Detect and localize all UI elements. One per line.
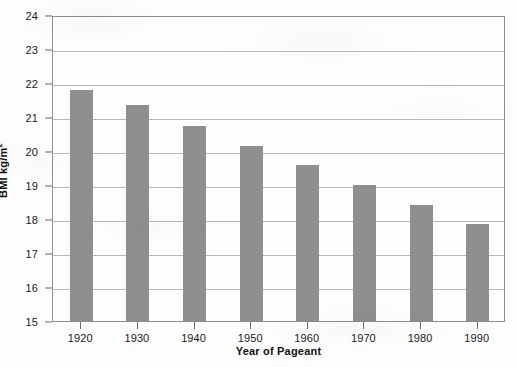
x-tick-mark-1930 <box>137 322 138 329</box>
y-tick-label-18: 18 <box>26 214 38 226</box>
gridline-20 <box>53 153 504 154</box>
x-tick-label-1980: 1980 <box>408 332 433 344</box>
y-tick-label-19: 19 <box>26 180 38 192</box>
bar-1960 <box>296 165 319 321</box>
x-tick-mark-1940 <box>194 322 195 329</box>
bar-1930 <box>126 105 149 321</box>
y-tick-mark-18 <box>45 220 52 221</box>
y-tick-mark-17 <box>45 254 52 255</box>
x-axis-title: Year of Pageant <box>52 345 505 357</box>
x-tick-label-1990: 1990 <box>464 332 489 344</box>
x-tick-mark-1980 <box>420 322 421 329</box>
y-tick-label-21: 21 <box>26 112 38 124</box>
gridline-19 <box>53 187 504 188</box>
x-tick-mark-1920 <box>80 322 81 329</box>
bar-1950 <box>240 146 263 321</box>
y-tick-mark-19 <box>45 186 52 187</box>
x-tick-label-1930: 1930 <box>124 332 149 344</box>
y-tick-label-23: 23 <box>26 44 38 56</box>
bar-1940 <box>183 126 206 322</box>
y-tick-mark-21 <box>45 118 52 119</box>
y-tick-label-15: 15 <box>26 316 38 328</box>
gridline-21 <box>53 119 504 120</box>
gridline-18 <box>53 221 504 222</box>
y-tick-label-24: 24 <box>26 10 38 22</box>
y-axis-title: BMI kg/m2 <box>0 143 9 198</box>
y-tick-label-16: 16 <box>26 282 38 294</box>
bar-1920 <box>70 90 93 321</box>
x-tick-mark-1950 <box>250 322 251 329</box>
y-axis-title-text: BMI kg/m <box>0 148 9 199</box>
gridline-23 <box>53 51 504 52</box>
y-tick-label-22: 22 <box>26 78 38 90</box>
bar-1990 <box>466 224 489 321</box>
bar-1980 <box>410 205 433 321</box>
y-tick-label-20: 20 <box>26 146 38 158</box>
x-tick-label-1920: 1920 <box>68 332 93 344</box>
y-tick-mark-15 <box>45 322 52 323</box>
gridline-16 <box>53 289 504 290</box>
x-tick-mark-1990 <box>477 322 478 329</box>
y-axis-title-exponent: 2 <box>0 143 4 147</box>
bar-1970 <box>353 185 376 321</box>
bmi-by-pageant-year-chart: 24232221201918171615 BMI kg/m2 192019301… <box>0 0 517 367</box>
gridline-22 <box>53 85 504 86</box>
x-tick-label-1940: 1940 <box>181 332 206 344</box>
y-tick-mark-16 <box>45 288 52 289</box>
y-tick-mark-24 <box>45 16 52 17</box>
x-tick-label-1950: 1950 <box>238 332 263 344</box>
y-tick-mark-20 <box>45 152 52 153</box>
x-tick-mark-1970 <box>363 322 364 329</box>
x-tick-label-1970: 1970 <box>351 332 376 344</box>
y-tick-mark-22 <box>45 84 52 85</box>
x-tick-mark-1960 <box>307 322 308 329</box>
gridline-17 <box>53 255 504 256</box>
x-tick-label-1960: 1960 <box>294 332 319 344</box>
plot-area <box>52 16 505 322</box>
y-tick-label-17: 17 <box>26 248 38 260</box>
y-tick-mark-23 <box>45 50 52 51</box>
